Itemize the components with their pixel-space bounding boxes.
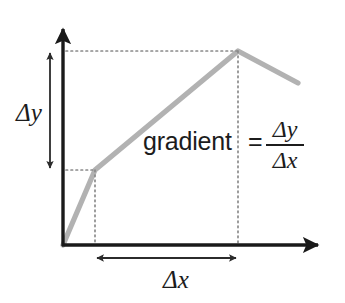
fraction-denominator: Δx [272, 148, 299, 174]
delta-y-axis-label: Δy [16, 100, 42, 125]
fraction-bar [266, 144, 304, 146]
gradient-fraction: Δy Δx [266, 117, 304, 174]
fraction-numerator: Δy [272, 117, 299, 143]
gradient-graph-figure: Δy Δx gradient = Δy Δx [0, 0, 345, 303]
gradient-word-label: gradient [143, 129, 232, 154]
delta-x-axis-label: Δx [163, 267, 189, 292]
equals-sign-label: = [248, 129, 263, 154]
